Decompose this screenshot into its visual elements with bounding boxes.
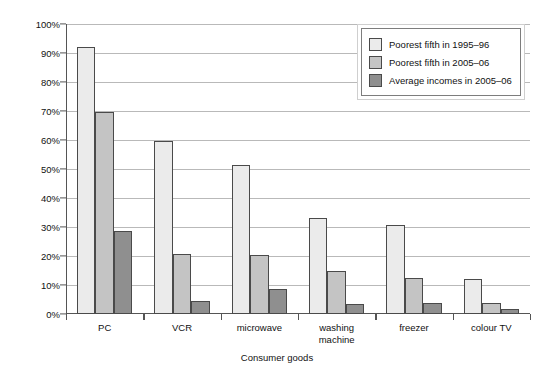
- legend-inner: Poorest fifth in 1995–96Poorest fifth in…: [361, 28, 521, 96]
- legend-label: Poorest fifth in 2005–06: [389, 57, 489, 68]
- bar-group: [154, 24, 210, 314]
- bar: [309, 218, 328, 314]
- x-label-line: colour TV: [446, 322, 536, 334]
- x-tick-mark: [143, 314, 144, 320]
- x-tick-label: colour TV: [446, 322, 536, 334]
- y-tick-label: 100%: [20, 19, 60, 30]
- y-tick-label: 70%: [20, 106, 60, 117]
- bar: [77, 47, 96, 314]
- bar: [232, 165, 251, 314]
- legend-swatch: [369, 74, 382, 87]
- bar: [250, 255, 269, 314]
- bar: [269, 289, 288, 314]
- bar-chart: Proportion of households in the income g…: [0, 0, 554, 374]
- bar: [464, 279, 483, 314]
- bar: [405, 278, 424, 314]
- bar: [154, 141, 173, 314]
- y-tick-label: 30%: [20, 222, 60, 233]
- x-axis-title: Consumer goods: [0, 352, 554, 363]
- y-tick-label: 90%: [20, 48, 60, 59]
- y-tick-label: 0%: [20, 309, 60, 320]
- legend-swatch: [369, 38, 382, 51]
- legend-label: Poorest fifth in 1995–96: [389, 39, 489, 50]
- x-label-line: machine: [292, 334, 382, 346]
- bar: [95, 112, 114, 314]
- x-tick-mark: [530, 314, 531, 320]
- bar-group: [232, 24, 288, 314]
- bar: [327, 271, 346, 315]
- y-tick-label: 20%: [20, 251, 60, 262]
- legend-item: Average incomes in 2005–06: [369, 71, 512, 89]
- legend-swatch: [369, 56, 382, 69]
- bar: [114, 231, 133, 314]
- y-tick-label: 10%: [20, 280, 60, 291]
- x-tick-mark: [221, 314, 222, 320]
- bar: [173, 254, 192, 314]
- bar: [386, 225, 405, 314]
- legend-item: Poorest fifth in 1995–96: [369, 35, 512, 53]
- bar: [423, 303, 442, 314]
- bar: [501, 309, 520, 314]
- legend: Poorest fifth in 1995–96Poorest fifth in…: [357, 24, 525, 100]
- y-tick-label: 60%: [20, 135, 60, 146]
- bar: [346, 304, 365, 314]
- x-tick-mark: [66, 314, 67, 320]
- x-tick-mark: [453, 314, 454, 320]
- legend-item: Poorest fifth in 2005–06: [369, 53, 512, 71]
- x-tick-mark: [375, 314, 376, 320]
- bar: [482, 303, 501, 314]
- y-tick-label: 80%: [20, 77, 60, 88]
- bar: [191, 301, 210, 314]
- legend-label: Average incomes in 2005–06: [389, 75, 512, 86]
- y-tick-label: 50%: [20, 164, 60, 175]
- bar-group: [77, 24, 133, 314]
- y-tick-label: 40%: [20, 193, 60, 204]
- x-tick-mark: [298, 314, 299, 320]
